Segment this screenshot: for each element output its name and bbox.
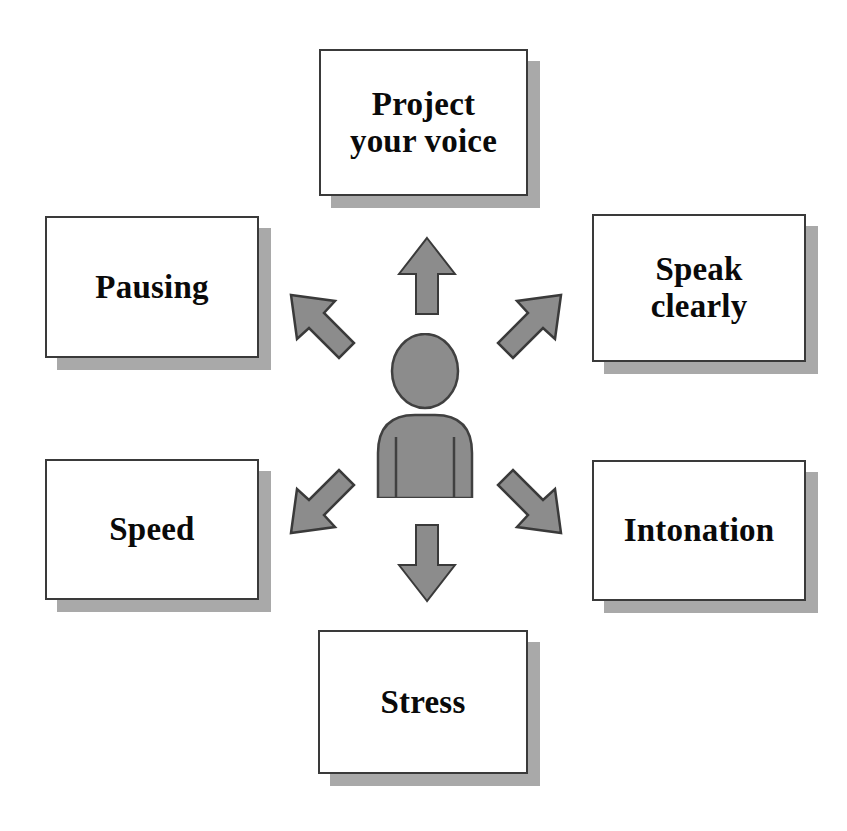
arrow-up-left-icon (287, 291, 359, 363)
arrow-down-icon (397, 523, 457, 603)
node-label-stress: Stress (381, 684, 466, 721)
node-label-speak-clearly: Speak clearly (651, 251, 748, 325)
arrow-down-right-icon (493, 465, 565, 537)
node-box-stress[interactable]: Stress (318, 630, 528, 774)
node-box-speak-clearly[interactable]: Speak clearly (592, 214, 806, 362)
node-label-project-your-voice: Project your voice (350, 86, 497, 160)
person-icon (370, 333, 480, 498)
diagram-canvas: Project your voice Pausing Speak clearly… (0, 0, 847, 831)
arrow-up-icon (397, 236, 457, 316)
arrow-up-right-icon (493, 291, 565, 363)
node-label-speed: Speed (109, 511, 194, 548)
node-box-intonation[interactable]: Intonation (592, 460, 806, 601)
node-box-project-your-voice[interactable]: Project your voice (319, 49, 528, 196)
node-box-speed[interactable]: Speed (45, 459, 259, 600)
node-box-pausing[interactable]: Pausing (45, 216, 259, 358)
arrow-down-left-icon (287, 465, 359, 537)
node-label-pausing: Pausing (95, 269, 208, 306)
node-label-intonation: Intonation (624, 512, 775, 549)
